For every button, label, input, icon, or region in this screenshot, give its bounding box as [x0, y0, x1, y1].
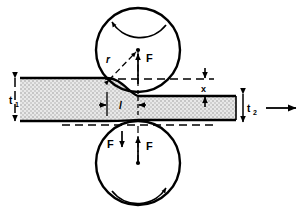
diagram-canvas: F r F F t 1 t 2 x l [0, 0, 301, 212]
t2-label-subscript: 2 [253, 109, 257, 116]
entry-thickness-dimension: t 1 [9, 78, 19, 121]
rolling-mill-diagram: F r F F t 1 t 2 x l [0, 0, 301, 212]
bottom-roll: F F [96, 121, 180, 205]
force-label-bottom-down: F [107, 138, 114, 150]
exit-thickness-dimension: t 2 [243, 94, 257, 122]
force-label-top: F [146, 52, 153, 64]
t1-label: t [9, 95, 13, 106]
force-label-bottom-up: F [146, 140, 153, 152]
strip-bottom-surface [20, 120, 236, 121]
x-label: x [201, 84, 206, 94]
t1-label-subscript: 1 [15, 101, 19, 108]
t2-label: t [247, 103, 251, 114]
l-label: l [119, 100, 122, 111]
top-roll: F r [96, 8, 180, 92]
